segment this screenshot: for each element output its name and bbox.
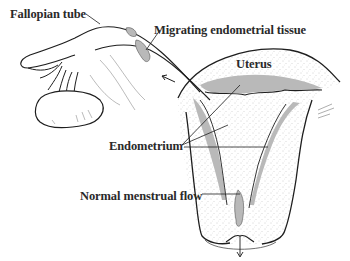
label-migrating-endometrial-tissue: Migrating endometrial tissue bbox=[154, 24, 306, 37]
label-normal-menstrual-flow: Normal menstrual flow bbox=[80, 190, 202, 203]
ovary bbox=[35, 91, 103, 128]
anatomy-illustration bbox=[0, 0, 350, 261]
ligament-hatching bbox=[318, 104, 334, 118]
label-uterus: Uterus bbox=[236, 58, 272, 71]
label-endometrium: Endometrium bbox=[109, 140, 183, 153]
endometriosis-diagram: Fallopian tube Migrating endometrial tis… bbox=[0, 0, 350, 261]
label-fallopian-tube: Fallopian tube bbox=[10, 8, 86, 21]
